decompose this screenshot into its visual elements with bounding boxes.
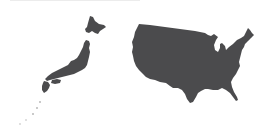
japan-ryukyu-islet bbox=[19, 123, 21, 125]
japan-ryukyu-islet bbox=[36, 107, 38, 109]
usa-map bbox=[132, 24, 254, 103]
japan-hokkaido bbox=[85, 16, 106, 34]
japan-kyushu bbox=[42, 81, 50, 93]
japan-shikoku bbox=[51, 79, 61, 84]
japan-ryukyu-islet bbox=[25, 119, 27, 121]
japan-honshu bbox=[45, 40, 90, 81]
map-canvas bbox=[0, 0, 275, 133]
japan-ryukyu-islet bbox=[39, 101, 41, 103]
japan-ryukyu-islet bbox=[32, 113, 34, 115]
usa-contiguous bbox=[132, 24, 254, 103]
japan-map bbox=[19, 16, 106, 125]
